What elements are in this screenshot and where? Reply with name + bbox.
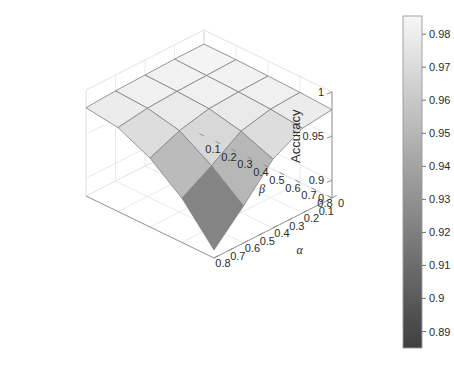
alpha-tick-label-7: 0.7 bbox=[230, 250, 245, 262]
colorbar-tick-label-6: 0.92 bbox=[429, 226, 450, 238]
alpha-tick-label-4: 0.4 bbox=[274, 227, 289, 239]
alpha-tick-label-3: 0.3 bbox=[289, 220, 304, 232]
alpha-tick-label-1: 0.1 bbox=[319, 205, 334, 217]
colorbar-tick-label-8: 0.9 bbox=[429, 292, 444, 304]
alpha-tick-0 bbox=[332, 196, 337, 199]
colorbar-tick-label-3: 0.95 bbox=[429, 127, 450, 139]
alpha-tick-label-0: 0 bbox=[338, 197, 344, 209]
beta-tick-label-1: 0.1 bbox=[205, 143, 220, 155]
colorbar-tick-label-2: 0.96 bbox=[429, 94, 450, 106]
beta-tick-label-6: 0.6 bbox=[285, 182, 300, 194]
beta-tick-label-5: 0.5 bbox=[269, 174, 284, 186]
colorbar-tick-label-4: 0.94 bbox=[429, 160, 450, 172]
alpha-tick-label-8: 0.8 bbox=[215, 257, 230, 269]
colorbar-tick-label-9: 0.89 bbox=[429, 326, 450, 338]
colorbar-gradient[interactable] bbox=[403, 16, 422, 348]
colorbar-group[interactable]: 0.980.970.960.950.940.930.920.910.90.89 bbox=[403, 16, 450, 348]
beta-tick-label-4: 0.4 bbox=[253, 166, 268, 178]
z-tick-label-2: 0.9 bbox=[309, 174, 324, 186]
surface-plot-svg: 10.950.900.10.20.30.40.50.60.70.800.10.2… bbox=[0, 0, 454, 385]
beta-axis-name: β bbox=[258, 182, 265, 196]
alpha-axis-name: α bbox=[296, 243, 303, 257]
colorbar-tick-label-5: 0.93 bbox=[429, 193, 450, 205]
beta-tick-label-3: 0.3 bbox=[237, 158, 252, 170]
z-tick-label-1: 0.95 bbox=[303, 130, 324, 142]
alpha-tick-label-2: 0.2 bbox=[304, 212, 319, 224]
alpha-tick-label-6: 0.6 bbox=[245, 242, 260, 254]
z-axis-name: Accuracy bbox=[288, 109, 303, 163]
beta-tick-label-2: 0.2 bbox=[221, 151, 236, 163]
colorbar-tick-label-1: 0.97 bbox=[429, 61, 450, 73]
alpha-tick-label-5: 0.5 bbox=[260, 235, 275, 247]
figure-canvas: 10.950.900.10.20.30.40.50.60.70.800.10.2… bbox=[0, 0, 454, 385]
colorbar-tick-label-7: 0.91 bbox=[429, 259, 450, 271]
colorbar-tick-label-0: 0.98 bbox=[429, 28, 450, 40]
beta-tick-label-7: 0.7 bbox=[301, 189, 316, 201]
z-tick-label-0: 1 bbox=[318, 86, 324, 98]
